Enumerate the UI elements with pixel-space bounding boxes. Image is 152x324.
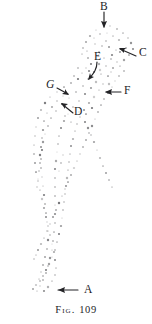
stipple-dot [39, 285, 40, 286]
stipple-dot [82, 85, 84, 87]
figure-caption: Fig. 109 [0, 304, 152, 315]
stipple-dot [105, 65, 106, 66]
stipple-dot [63, 120, 65, 122]
stipple-dot [34, 162, 36, 164]
stipple-dot [90, 63, 92, 65]
stipple-dot [35, 284, 37, 286]
label-c: C [139, 47, 147, 59]
stipple-dot [66, 177, 68, 179]
stipple-dot [122, 32, 124, 34]
stipple-dot [94, 43, 95, 44]
stipple-dot [69, 153, 71, 155]
stipple-dot [41, 176, 42, 177]
arrow-g [57, 88, 69, 95]
stipple-dot [43, 194, 45, 196]
stipple-dot [51, 256, 52, 257]
stipple-dot [116, 28, 118, 30]
arrow-a [58, 287, 78, 293]
stipple-dot [68, 97, 69, 98]
stipple-dot [35, 254, 37, 256]
stipple-dot [91, 125, 93, 127]
stipple-dot [52, 216, 54, 218]
stipple-dot [40, 243, 42, 245]
stipple-dot [95, 29, 96, 30]
stipple-dot [35, 126, 37, 128]
stipple-dot [76, 160, 77, 161]
stipple-dot [45, 272, 47, 274]
stipple-dot [64, 115, 66, 117]
stipple-dot [62, 154, 64, 156]
stipple-dot [93, 96, 95, 98]
stipple-dot [85, 41, 87, 43]
stipple-dot [102, 165, 104, 167]
stipple-dot [33, 258, 34, 259]
stipple-dot [76, 123, 77, 124]
stipple-dot [115, 49, 116, 50]
stipple-dot [107, 75, 109, 77]
figure-plate: A B C D E F G Fig. 109 [0, 0, 152, 324]
stipple-dot [47, 286, 49, 288]
stipple-dot [109, 25, 111, 27]
stipple-dot [42, 185, 43, 186]
stipple-dot [64, 188, 65, 189]
stipple-dot [47, 239, 49, 241]
stipple-dot [101, 45, 102, 46]
stipple-dot [55, 160, 57, 162]
stipple-dot [52, 240, 53, 241]
stipple-dot [54, 213, 56, 215]
stipple-dot [56, 91, 57, 92]
stipple-dot [42, 275, 44, 277]
label-f: F [124, 85, 131, 97]
stipple-dot [57, 143, 58, 144]
stipple-dot [45, 269, 47, 271]
stipple-dot [58, 202, 60, 204]
stipple-dot [116, 61, 117, 62]
stipple-dot [123, 59, 125, 61]
stipple-dot [79, 153, 80, 154]
label-a: A [84, 284, 93, 296]
stipple-dot [85, 139, 87, 141]
stipple-dot [91, 107, 93, 109]
stipple-dot [90, 134, 91, 135]
stipple-dot [108, 83, 110, 85]
stipple-dot [128, 54, 130, 56]
stipple-dot [89, 35, 91, 37]
stipple-dot [54, 204, 55, 205]
stipple-dot [112, 67, 114, 69]
label-d: D [74, 106, 83, 118]
stipple-dot [119, 65, 120, 66]
stipple-dot [110, 58, 112, 60]
stipple-dot [112, 35, 114, 37]
stipple-dot [85, 67, 86, 68]
stipple-dot [39, 154, 41, 156]
stipple-dot [54, 249, 55, 250]
stipple-dot [87, 127, 89, 129]
stipple-dot [95, 81, 97, 83]
stipple-dot [49, 234, 50, 235]
stipple-dot [55, 267, 57, 269]
stipple-dot [42, 129, 44, 131]
stipple-dot [111, 186, 112, 187]
stipple-dot [37, 180, 38, 181]
stipple-dot [42, 141, 44, 143]
stipple-dot [44, 102, 46, 104]
stipple-dot [99, 33, 101, 35]
stipple-dot [56, 100, 58, 102]
stipple-dot [37, 178, 38, 179]
stipple-dot [103, 57, 105, 59]
stipple-dot [55, 110, 57, 112]
stipple-dot [54, 259, 56, 261]
stipple-dot [103, 98, 105, 100]
stipple-dot [81, 53, 82, 54]
stipple-dot [58, 233, 60, 235]
stipple-dot [127, 37, 128, 38]
stipple-dot [100, 73, 101, 74]
stipple-dot [119, 51, 121, 53]
stipple-dot [102, 83, 103, 84]
stipple-dot [70, 121, 71, 122]
stipple-dot [37, 117, 39, 119]
stipple-dot [38, 170, 40, 172]
stipple-dot [47, 265, 49, 267]
stipple-dot [42, 279, 44, 281]
arrow-d [61, 103, 73, 113]
